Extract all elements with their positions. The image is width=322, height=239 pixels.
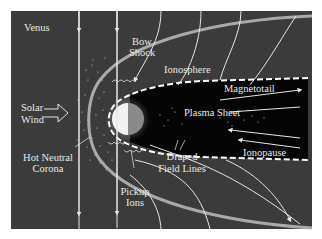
label-bow-shock-line2: Shock bbox=[126, 47, 158, 58]
label-magnetotail: Magnetotail bbox=[224, 83, 275, 94]
label-hot-neutral-corona-line1: Hot Neutral bbox=[18, 152, 78, 163]
label-hot-neutral-corona-line2: Corona bbox=[18, 163, 78, 174]
label-pickup-ions-line1: Pickup bbox=[119, 186, 151, 197]
label-plasma-sheet: Plasma Sheet bbox=[184, 107, 240, 118]
label-venus: Venus bbox=[24, 22, 50, 33]
label-ionosphere: Ionosphere bbox=[164, 64, 211, 75]
label-solar-wind-line1: Solar bbox=[21, 102, 43, 113]
label-solar-wind-line2: Wind bbox=[21, 114, 44, 125]
venus-magnetosphere-diagram bbox=[0, 0, 322, 239]
label-pickup-ions-line2: Ions bbox=[119, 197, 151, 208]
label-bow-shock-line1: Bow bbox=[128, 36, 156, 47]
venus-planet bbox=[106, 97, 150, 141]
label-ionopause: Ionopause bbox=[243, 147, 286, 158]
label-draped-field-lines-line2: Field Lines bbox=[155, 163, 209, 174]
label-draped-field-lines-line1: Draped bbox=[162, 151, 202, 162]
